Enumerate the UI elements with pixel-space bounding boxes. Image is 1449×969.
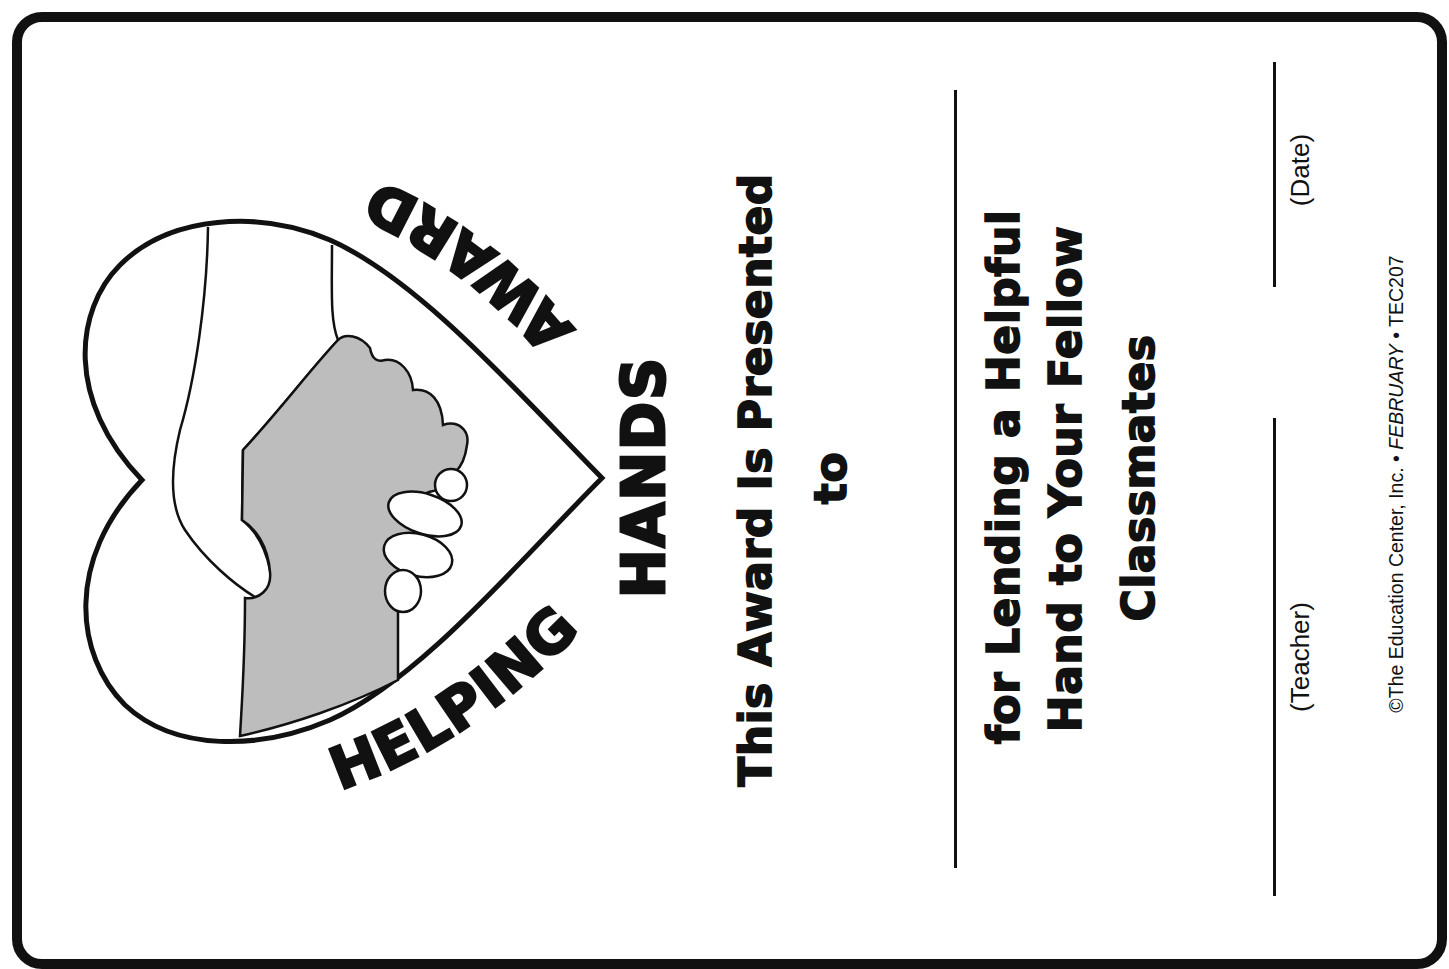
finger-icon (435, 469, 467, 501)
copyright-notice: ©The Education Center, Inc. • FEBRUARY •… (1385, 255, 1408, 712)
reason-line-3: Classmates (1113, 334, 1164, 621)
recipient-name-line[interactable] (954, 90, 957, 868)
copyright-suffix: • TEC207 (1385, 255, 1407, 344)
finger-icon (385, 570, 421, 612)
teacher-label: (Teacher) (1285, 602, 1316, 712)
reason-line-1: for Lending a Helpful (978, 210, 1029, 745)
date-label: (Date) (1285, 134, 1316, 206)
reason-line-2: Hand to Your Fellow (1040, 226, 1091, 732)
presented-heading: This Award Is Presented (730, 173, 781, 787)
presented-to-word: to (805, 452, 856, 504)
copyright-prefix: ©The Education Center, Inc. • (1385, 450, 1407, 713)
hands-title: HANDS (610, 356, 678, 598)
copyright-month: FEBRUARY (1385, 344, 1407, 449)
date-signature-line[interactable] (1273, 62, 1276, 287)
teacher-signature-line[interactable] (1273, 418, 1276, 896)
